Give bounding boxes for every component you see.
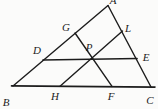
label-A: A [109,0,117,6]
label-F: F [107,90,115,102]
segment-AC [108,6,151,88]
label-D: D [32,44,41,56]
label-L: L [124,22,131,34]
segment-BC [12,86,156,87]
figure: AGLDPEBHFC [0,0,158,109]
geometry-diagram: AGLDPEBHFC [0,0,158,109]
label-C: C [146,94,154,106]
label-H: H [50,90,60,102]
label-P: P [85,41,93,53]
label-E: E [142,51,150,63]
label-G: G [62,21,70,33]
label-B: B [3,96,10,108]
segment-AB [13,6,108,87]
